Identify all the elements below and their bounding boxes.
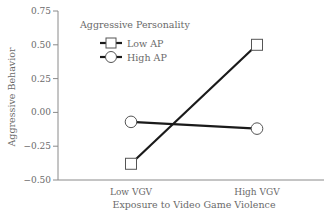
y-tick-label: −0.50 [23,175,51,185]
x-axis-title: Exposure to Video Game Violence [112,199,275,210]
series-line-low-ap [131,45,257,164]
square-marker-icon [126,158,137,169]
legend-title: Aggressive Personality [79,19,190,30]
legend-label-high-ap: High AP [127,52,167,63]
legend-label-low-ap: Low AP [127,38,164,49]
circle-marker-icon [106,52,117,63]
y-ticks: 0.750.500.250.00−0.25−0.50 [23,6,58,185]
y-tick-label: 0.75 [31,6,51,16]
circle-marker-icon [251,123,263,135]
y-tick-label: −0.25 [23,141,51,151]
x-tick-label-high-vgv: High VGV [234,187,280,197]
legend-entry-low-ap: Low AP [100,38,164,49]
line-chart: 0.750.500.250.00−0.25−0.50 Aggressive Be… [0,0,331,216]
legend-entry-high-ap: High AP [100,52,167,63]
square-marker-icon [252,39,263,50]
y-axis-title: Aggressive Behavior [6,47,17,147]
x-tick-label-low-vgv: Low VGV [110,187,153,197]
legend: Aggressive Personality Low AP High AP [79,19,190,63]
y-tick-label: 0.00 [31,107,51,117]
y-tick-label: 0.25 [31,74,51,84]
y-tick-label: 0.50 [31,40,51,50]
circle-marker-icon [125,116,137,128]
square-marker-icon [106,38,116,48]
series-line-high-ap [131,122,257,129]
